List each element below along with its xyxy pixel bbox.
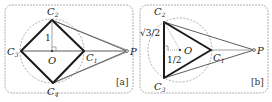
panel-b-label-c2: C2: [154, 6, 166, 18]
panel-b-label-c1: C1: [213, 52, 224, 64]
panel-b-label-p: P: [256, 45, 264, 56]
panel-b-frame: [140, 5, 268, 93]
panel-a-label-o: O: [48, 55, 56, 66]
figure: C2 C3 C4 C1 O 1 P [a] C2 √3/2 1/2 O C1 C…: [0, 0, 272, 102]
panel-b-label-apothem: 1/2: [167, 55, 181, 65]
panel-b: C2 √3/2 1/2 O C1 C3 P [b]: [140, 5, 268, 93]
panel-b-label-half-side: √3/2: [140, 28, 160, 38]
panel-a-label-c2: C2: [47, 6, 59, 18]
panel-a-label-c4: C4: [47, 86, 59, 98]
panel-a-label-radius: 1: [45, 33, 51, 43]
panel-a-label-p: P: [129, 46, 137, 57]
panel-b-label-o: O: [184, 45, 192, 56]
panel-b-point-p: [253, 49, 256, 52]
panel-b-label-c3: C3: [154, 81, 166, 93]
panel-a-line-c2-p-2: [54, 21, 127, 50]
panel-b-point-o: [179, 49, 181, 51]
panel-a-tag: [a]: [116, 77, 128, 87]
panel-a-label-c3: C3: [7, 46, 19, 58]
panel-a-label-c1: C1: [86, 52, 97, 64]
panel-b-line-c2-p: [164, 22, 254, 50]
panel-a-point-p: [126, 50, 129, 53]
panel-a-point-o: [51, 50, 53, 52]
panel-a: C2 C3 C4 C1 O 1 P [a]: [5, 5, 137, 98]
panel-b-tag: [b]: [251, 77, 264, 87]
